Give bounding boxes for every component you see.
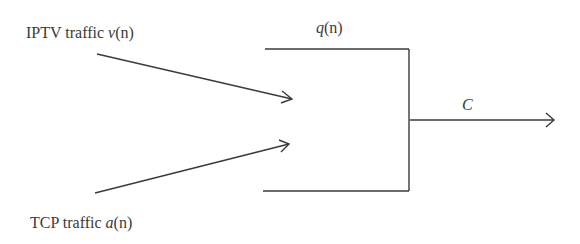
tcp-traffic-label: TCP traffic a(n)	[30, 214, 132, 232]
tcp-input-arrow	[95, 140, 289, 193]
capacity-label: C	[462, 96, 473, 113]
queue-length-label: q(n)	[316, 19, 343, 37]
iptv-input-arrow	[97, 54, 292, 103]
iptv-traffic-label: IPTV traffic v(n)	[26, 24, 134, 42]
queue-diagram: IPTV traffic v(n) TCP traffic a(n) q(n) …	[0, 0, 580, 244]
output-arrow	[410, 113, 554, 127]
queue-buffer	[263, 49, 409, 191]
